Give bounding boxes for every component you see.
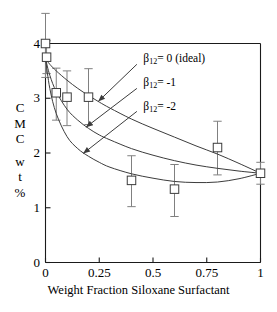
y-tick-label-1: 1 — [26, 200, 40, 216]
y-tick-label-4: 4 — [26, 36, 40, 52]
data-point-marker — [84, 93, 93, 102]
y-axis-title-char: w — [10, 154, 30, 170]
series-label-beta--1: β12= -1 — [143, 76, 176, 90]
y-axis-title-gap — [10, 147, 30, 154]
beta-subscript: 12 — [149, 57, 157, 66]
y-axis-title-char: C — [10, 100, 30, 116]
data-point-marker — [213, 143, 222, 152]
data-point-marker — [170, 185, 179, 194]
x-tick-label-0.5: 0.5 — [145, 265, 161, 281]
data-point-marker — [42, 53, 51, 62]
y-axis-title-char: % — [10, 185, 30, 201]
y-axis-title-char: M — [10, 116, 30, 132]
data-point-marker — [256, 169, 265, 178]
series-label-beta--2: β12= -2 — [143, 100, 176, 114]
y-axis-title-char: C — [10, 131, 30, 147]
series-label-beta-0: β12= 0 (ideal) — [143, 52, 205, 66]
beta-value-text: = -1 — [157, 76, 176, 88]
x-tick-label-0.75: 0.75 — [195, 265, 218, 281]
x-tick-label-0: 0 — [42, 265, 49, 281]
beta-subscript: 12 — [149, 105, 157, 114]
y-tick-label-0: 0 — [26, 255, 40, 271]
cmc-chart-figure: 00.250.50.751 01234 Weight Fraction Silo… — [0, 0, 277, 312]
beta-value-text: = 0 (ideal) — [157, 52, 205, 64]
y-axis-title: CMCwt% — [10, 100, 30, 200]
beta-value-text: = -2 — [157, 100, 176, 112]
x-tick-label-1: 1 — [257, 265, 264, 281]
data-point-marker — [127, 176, 136, 185]
arrow-head-icon — [83, 147, 90, 153]
x-tick-label-0.25: 0.25 — [88, 265, 111, 281]
beta-subscript: 12 — [149, 81, 157, 90]
data-point-marker — [41, 39, 50, 48]
x-axis-title: Weight Fraction Siloxane Surfactant — [0, 283, 277, 298]
annotation-arrow-1 — [86, 88, 137, 127]
annotation-arrow-0 — [98, 64, 137, 101]
data-point-marker — [52, 89, 61, 98]
y-axis-title-char: t — [10, 169, 30, 185]
data-point-marker — [63, 93, 72, 102]
